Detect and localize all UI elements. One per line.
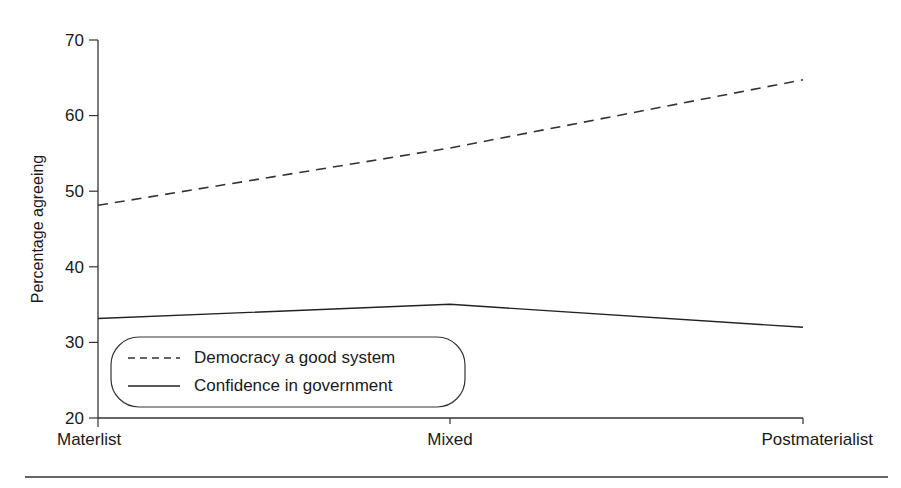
y-tick-label: 20	[65, 409, 84, 428]
legend: Democracy a good system Confidence in go…	[111, 337, 465, 407]
y-tick-label: 40	[65, 258, 84, 277]
y-tick-label: 60	[65, 106, 84, 125]
y-tick-label: 50	[65, 182, 84, 201]
legend-label-confidence: Confidence in government	[194, 376, 393, 395]
x-tick-label-mixed: Mixed	[427, 430, 472, 449]
series-democracy-line	[98, 80, 803, 206]
y-tick-label: 70	[65, 31, 84, 50]
y-tick-labels: 20 30 40 50 60 70	[65, 31, 84, 428]
legend-label-democracy: Democracy a good system	[194, 348, 395, 367]
x-tick-labels: Materlist Mixed Postmaterialist	[57, 430, 873, 449]
series-confidence-line	[98, 304, 803, 327]
y-tick-label: 30	[65, 333, 84, 352]
y-axis-title: Percentage agreeing	[29, 155, 46, 304]
x-tick-label-postmaterialist: Postmaterialist	[762, 430, 874, 449]
line-chart: 20 30 40 50 60 70 Materlist Mixed Postma…	[0, 0, 901, 488]
x-tick-label-materlist: Materlist	[57, 430, 122, 449]
x-ticks	[98, 418, 803, 427]
y-ticks	[89, 40, 98, 418]
